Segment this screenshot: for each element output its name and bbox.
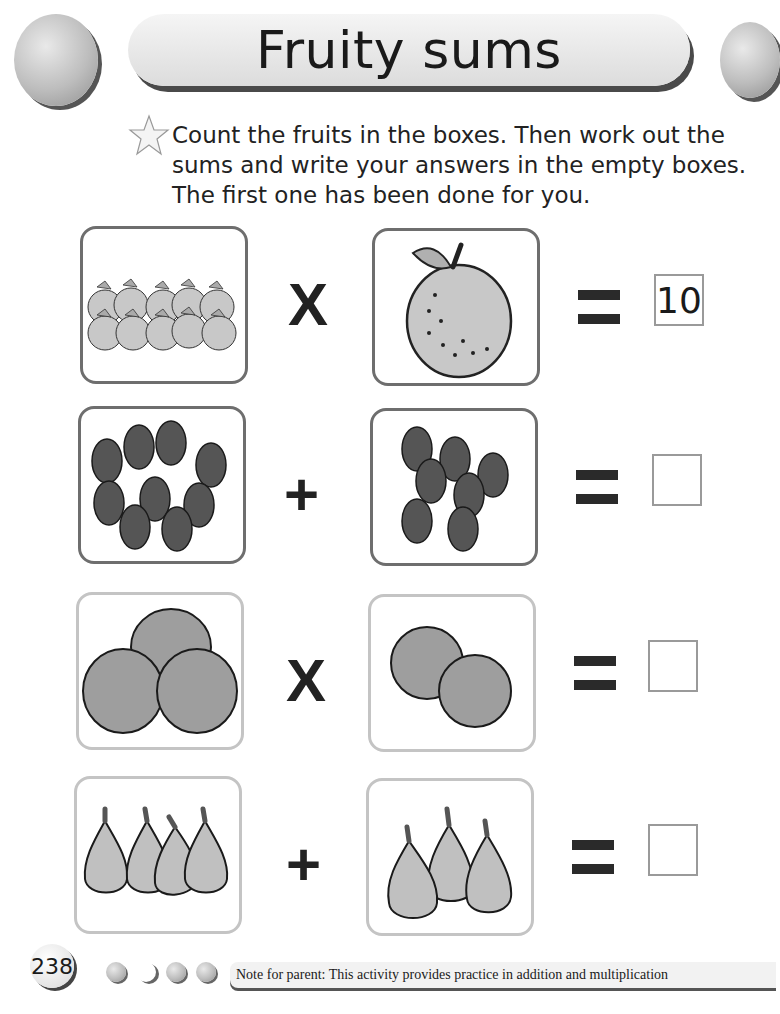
decorative-dot bbox=[196, 962, 216, 982]
fruit-box-blackberries-7 bbox=[370, 408, 538, 566]
decorative-ball-right bbox=[720, 22, 780, 98]
fruit-box-pears-4 bbox=[74, 776, 242, 934]
equals-sign bbox=[574, 656, 616, 690]
equals-sign bbox=[572, 840, 614, 874]
fruit-box-apple-1 bbox=[372, 228, 540, 386]
operator-plus: + bbox=[284, 460, 319, 529]
answer-box-3[interactable] bbox=[648, 640, 698, 692]
decorative-ball-left bbox=[14, 14, 98, 106]
title-banner: Fruity sums bbox=[128, 14, 690, 86]
operator-plus: + bbox=[286, 830, 321, 899]
fruit-box-apples-10 bbox=[80, 226, 248, 384]
answer-box-2[interactable] bbox=[652, 454, 702, 506]
operator-multiply: X bbox=[286, 646, 326, 715]
parent-note: Note for parent: This activity provides … bbox=[230, 962, 776, 988]
answer-box-1[interactable]: 10 bbox=[654, 274, 704, 326]
equals-sign bbox=[576, 470, 618, 504]
fruit-box-oranges-3 bbox=[76, 592, 244, 750]
star-icon bbox=[128, 114, 170, 156]
decorative-dot bbox=[136, 962, 156, 982]
operator-multiply: X bbox=[288, 270, 328, 339]
fruit-box-pears-3 bbox=[366, 778, 534, 936]
fruit-box-oranges-2 bbox=[368, 594, 536, 752]
instructions-text: Count the fruits in the boxes. Then work… bbox=[172, 120, 752, 210]
fruit-box-blackberries-9 bbox=[78, 406, 246, 564]
decorative-dot bbox=[166, 962, 186, 982]
page-title: Fruity sums bbox=[256, 20, 562, 80]
equals-sign bbox=[578, 290, 620, 324]
decorative-dot bbox=[106, 962, 126, 982]
page-number: 238 bbox=[30, 944, 74, 988]
answer-box-4[interactable] bbox=[648, 824, 698, 876]
